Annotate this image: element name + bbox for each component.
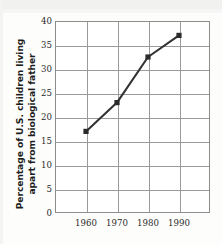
y-axis-tick-label: 40 <box>32 17 52 26</box>
y-axis-tick-label: 10 <box>32 161 52 170</box>
y-axis-tick-label: 15 <box>32 137 52 146</box>
y-axis-tick-label: 25 <box>32 89 52 98</box>
data-point-marker <box>114 100 119 105</box>
y-axis-tick-label: 5 <box>32 185 52 194</box>
x-axis-tick-labels: 1960197019801990 <box>55 218 210 232</box>
data-series-layer <box>55 21 210 213</box>
x-axis-tick-label: 1990 <box>159 218 199 228</box>
y-axis-tick-label: 0 <box>32 209 52 218</box>
y-axis-tick-label: 35 <box>32 41 52 50</box>
y-axis-tick-label: 30 <box>32 65 52 74</box>
y-axis-title-line-1: Percentage of U.S. children living <box>14 39 26 210</box>
line-chart-figure: Percentage of U.S. children living apart… <box>0 0 222 244</box>
data-point-marker <box>83 129 88 134</box>
data-point-marker <box>145 54 150 59</box>
y-axis-tick-label: 20 <box>32 113 52 122</box>
series-line <box>86 35 179 131</box>
data-point-marker <box>176 33 181 38</box>
y-axis-tick-labels: 0510152025303540 <box>30 21 52 213</box>
